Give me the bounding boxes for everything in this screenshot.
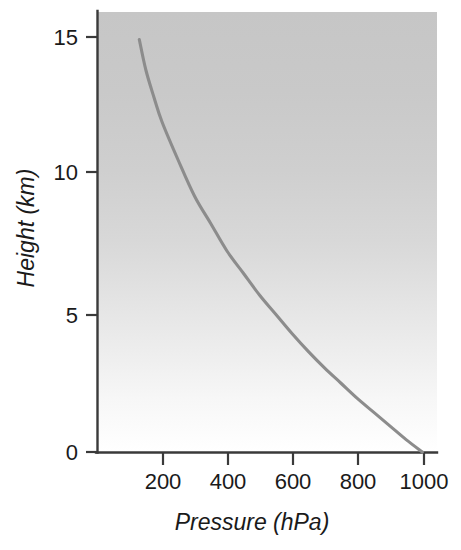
x-axis-title: Pressure (hPa) <box>175 509 330 535</box>
y-tick-label-0: 0 <box>66 440 78 465</box>
pressure-height-chart: 15 10 5 0 200 400 600 800 1000 Pressure … <box>0 0 461 550</box>
x-tick-label-200: 200 <box>145 469 182 494</box>
x-tick-label-600: 600 <box>275 469 312 494</box>
x-tick-label-800: 800 <box>340 469 377 494</box>
x-tick-label-1000: 1000 <box>400 469 449 494</box>
figure-container: 15 10 5 0 200 400 600 800 1000 Pressure … <box>0 0 461 550</box>
y-axis-title: Height (km) <box>13 169 39 288</box>
y-tick-label-5: 5 <box>66 303 78 328</box>
y-tick-label-15: 15 <box>54 25 78 50</box>
x-tick-label-400: 400 <box>210 469 247 494</box>
y-tick-label-10: 10 <box>54 160 78 185</box>
